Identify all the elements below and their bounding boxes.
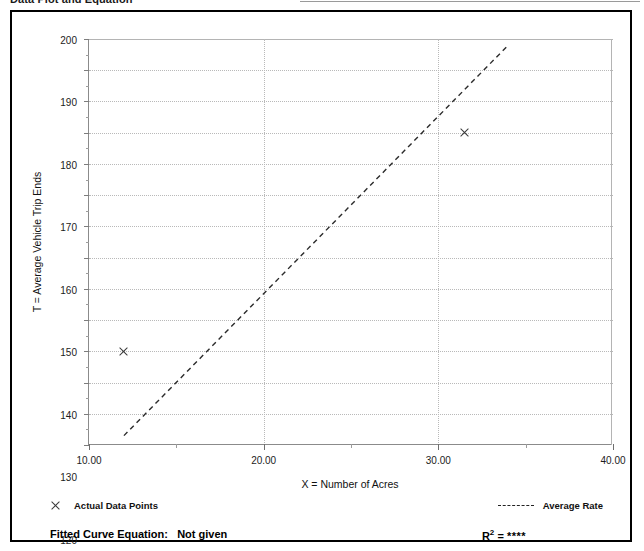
chart-legend: Actual Data Points Average Rate bbox=[12, 500, 630, 524]
data-point-marker bbox=[118, 346, 129, 357]
legend-label-actual-data-points: Actual Data Points bbox=[74, 500, 158, 511]
y-axis-tick-label: 190 bbox=[60, 97, 77, 108]
x-axis-tick-label: 10.00 bbox=[76, 455, 101, 466]
legend-entry-actual-data-points: Actual Data Points bbox=[50, 500, 158, 511]
r-squared-stars: **** bbox=[507, 530, 526, 542]
legend-label-average-rate: Average Rate bbox=[543, 500, 603, 511]
data-point-marker bbox=[459, 127, 470, 138]
plot-area: 708090100110120130140150160170180190200 … bbox=[88, 39, 612, 445]
y-axis-tick-label: 130 bbox=[60, 472, 77, 483]
chart-region: T = Average Vehicle Trip Ends 7080901001… bbox=[12, 12, 630, 482]
x-axis-tick-major bbox=[613, 444, 614, 450]
x-axis-tick-label: 30.00 bbox=[426, 455, 451, 466]
figure-frame: T = Average Vehicle Trip Ends 7080901001… bbox=[10, 10, 632, 542]
y-axis-tick-label: 140 bbox=[60, 409, 77, 420]
dashed-line-icon bbox=[498, 505, 534, 506]
x-axis-tick-label: 40.00 bbox=[600, 455, 625, 466]
y-axis-title: T = Average Vehicle Trip Ends bbox=[28, 39, 46, 445]
document-header-title: Data Plot and Equation bbox=[10, 0, 133, 5]
r-squared-value: R2 = **** bbox=[482, 528, 526, 542]
average-rate-trend-line bbox=[89, 39, 613, 445]
fitted-curve-label: Fitted Curve Equation: bbox=[50, 528, 168, 540]
y-axis-tick-label: 180 bbox=[60, 159, 77, 170]
x-axis-title: X = Number of Acres bbox=[88, 478, 612, 490]
y-axis-tick-label: 200 bbox=[60, 35, 77, 46]
y-axis-tick-label: 170 bbox=[60, 222, 77, 233]
fitted-curve-equation: Fitted Curve Equation: Not given bbox=[50, 528, 227, 540]
r-squared-exponent: 2 bbox=[490, 528, 494, 537]
y-axis-tick-label: 160 bbox=[60, 284, 77, 295]
header-divider bbox=[300, 1, 640, 2]
fitted-curve-value: Not given bbox=[177, 528, 227, 540]
x-axis-tick-label: 20.00 bbox=[251, 455, 276, 466]
y-axis-tick-label: 150 bbox=[60, 347, 77, 358]
legend-entry-average-rate: Average Rate bbox=[498, 500, 603, 511]
x-marker-icon bbox=[50, 500, 61, 511]
r-squared-equals: = bbox=[497, 530, 503, 542]
r-squared-label: R bbox=[482, 530, 490, 542]
figure-footer: Fitted Curve Equation: Not given R2 = **… bbox=[12, 528, 630, 551]
